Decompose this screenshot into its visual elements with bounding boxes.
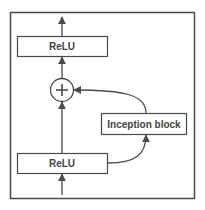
relu-top-label: ReLU	[49, 41, 75, 52]
add-node	[51, 79, 74, 102]
relu-top-node: ReLU	[18, 37, 108, 57]
relu-bottom-node: ReLU	[18, 154, 108, 174]
relu-to-inception-arrow	[108, 135, 146, 163]
inception-to-add-arrow	[74, 90, 146, 113]
diagram-canvas: ReLU Inception block ReLU	[0, 0, 205, 210]
inception-block-label: Inception block	[107, 119, 181, 130]
inception-block-node: Inception block	[102, 114, 187, 135]
relu-bottom-label: ReLU	[49, 158, 75, 169]
residual-block-diagram: ReLU Inception block ReLU	[0, 0, 205, 210]
